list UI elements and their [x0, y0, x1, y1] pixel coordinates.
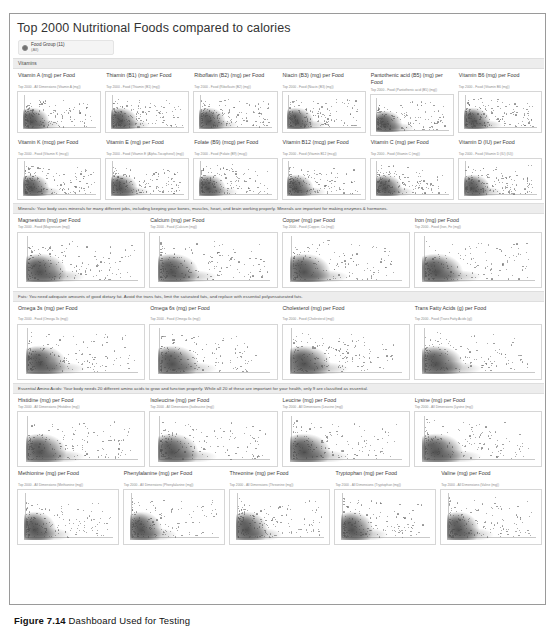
scatter-plot[interactable]	[334, 489, 436, 545]
section-banner-amino-acids: Essential Amino Acids: Your body needs 2…	[13, 383, 544, 394]
scatter-density	[287, 95, 345, 129]
scatter-density	[130, 495, 200, 540]
figure-caption: Figure 7.14 Dashboard Used for Testing	[14, 615, 190, 626]
chart-panel[interactable]: Pantothenic acid (B5) (mg) per FoodTop 2…	[370, 69, 458, 136]
scatter-plot[interactable]	[193, 91, 277, 133]
scatter-plot[interactable]	[229, 489, 331, 545]
scatter-plot[interactable]	[370, 158, 454, 200]
dashboard-content: Top 2000 Nutritional Foods compared to c…	[13, 17, 544, 603]
chart-panel[interactable]: Tryptophan (mg) per FoodTop 2000 - All D…	[334, 467, 440, 545]
chart-panel[interactable]: Magnesium (mg) per FoodTop 2000 - Food (…	[17, 214, 149, 288]
chart-title: Vitamin A (mg) per Food	[17, 69, 101, 83]
chart-panel[interactable]: Leucine (mg) per FoodTop 2000 - All Dime…	[282, 394, 414, 468]
chart-panel[interactable]: Trans Fatty Acids (g) per FoodTop 2000 -…	[414, 302, 542, 380]
scatter-plot[interactable]	[17, 411, 145, 467]
scatter-plot[interactable]	[282, 232, 410, 288]
chart-title: Riboflavin (B2) (mg) per Food	[193, 69, 277, 83]
scatter-plot[interactable]	[123, 489, 225, 545]
scatter-plot[interactable]	[414, 324, 542, 380]
chart-panel[interactable]: Vitamin B12 (mcg) per FoodTop 2000 - Foo…	[282, 136, 370, 200]
scatter-plot[interactable]	[282, 411, 410, 467]
chart-panel[interactable]: Histidine (mg) per FoodTop 2000 - All Di…	[17, 394, 149, 468]
chart-panel[interactable]: Phenylalanine (mg) per FoodTop 2000 - Al…	[123, 467, 229, 545]
chart-panel[interactable]: Vitamin A (mg) per FoodTop 2000 - All Di…	[17, 69, 105, 136]
chart-panel[interactable]: Niacin (B3) (mg) per FoodTop 2000 - Food…	[282, 69, 370, 136]
scatter-plot[interactable]	[440, 489, 542, 545]
chart-panel[interactable]: Methionine (mg) per FoodTop 2000 - All D…	[17, 467, 123, 545]
scatter-plot[interactable]	[282, 91, 366, 133]
scatter-plot[interactable]	[458, 158, 542, 200]
chart-subtitle: Top 2000 - Food (Trans Fatty Acids (g))	[414, 316, 542, 324]
scatter-plot[interactable]	[149, 411, 277, 467]
chart-panel[interactable]: Vitamin E (mg) per FoodTop 2000 - Food (…	[105, 136, 193, 200]
scatter-plot[interactable]	[17, 489, 119, 545]
scatter-density	[158, 417, 246, 462]
chart-panel[interactable]: Riboflavin (B2) (mg) per FoodTop 2000 - …	[193, 69, 281, 136]
scatter-plot[interactable]	[414, 232, 542, 288]
chart-title: Trans Fatty Acids (g) per Food	[414, 302, 542, 316]
chart-panel[interactable]: Vitamin D (IU) per FoodTop 2000 - Food (…	[458, 136, 542, 200]
chart-panel[interactable]: Threonine (mg) per FoodTop 2000 - All Di…	[229, 467, 335, 545]
scatter-plot[interactable]	[149, 324, 277, 380]
chart-panel[interactable]: Omega 3s (mg) per FoodTop 2000 - Food (O…	[17, 302, 149, 380]
chart-panel[interactable]: Thiamin (B1) (mg) per FoodTop 2000 - Foo…	[105, 69, 193, 136]
scatter-plot[interactable]	[458, 91, 542, 133]
chart-subtitle: Top 2000 - All Dimensions (Vitamin A (mg…	[17, 84, 101, 92]
chart-subtitle: Top 2000 - Food (Folate (B9) (mcg))	[193, 151, 277, 159]
chart-panel[interactable]: Vitamin B6 (mg) per FoodTop 2000 - Food …	[458, 69, 542, 136]
chart-panel[interactable]: Iron (mg) per FoodTop 2000 - Food (Iron,…	[414, 214, 542, 288]
tableau-dashboard[interactable]: Top 2000 Nutritional Foods compared to c…	[9, 13, 546, 605]
chart-subtitle: Top 2000 - Food (Pantothenic acid (B5) (…	[370, 87, 454, 95]
chart-subtitle: Top 2000 - Food (Riboflavin (B2) (mg))	[193, 84, 277, 92]
scatter-density	[111, 162, 169, 196]
chart-row: Magnesium (mg) per FoodTop 2000 - Food (…	[13, 214, 544, 288]
scatter-density	[23, 95, 81, 129]
chart-subtitle: Top 2000 - All Dimensions (Valine (mg))	[440, 482, 542, 490]
chart-title: Iron (mg) per Food	[414, 214, 542, 224]
section-banner-text: Vitamins	[18, 60, 37, 67]
chart-panel[interactable]: Copper (mg) per FoodTop 2000 - Food (Cop…	[282, 214, 414, 288]
figure-caption-text: Dashboard Used for Testing	[69, 615, 191, 626]
scatter-plot[interactable]	[282, 158, 366, 200]
chart-panel[interactable]: Omega 6s (mg) per FoodTop 2000 - Food (O…	[149, 302, 281, 380]
chart-title: Niacin (B3) (mg) per Food	[282, 69, 366, 83]
food-group-filter[interactable]: Food Group (11) (All)	[18, 40, 114, 55]
chart-title: Cholesterol (mg) per Food	[282, 302, 410, 316]
scatter-plot[interactable]	[17, 324, 145, 380]
scatter-plot[interactable]	[105, 91, 189, 133]
chart-panel[interactable]: Valine (mg) per FoodTop 2000 - All Dimen…	[440, 467, 542, 545]
chart-title: Omega 3s (mg) per Food	[17, 302, 145, 316]
chart-panel[interactable]: Lysine (mg) per FoodTop 2000 - All Dimen…	[414, 394, 542, 468]
chart-subtitle: Top 2000 - All Dimensions (Tryptophan (m…	[334, 482, 436, 490]
chart-panel[interactable]: Vitamin C (mg) per FoodTop 2000 - Food (…	[370, 136, 458, 200]
chart-panel[interactable]: Vitamin K (mcg) per FoodTop 2000 - Food …	[17, 136, 105, 200]
scatter-density	[422, 329, 510, 374]
scatter-plot[interactable]	[17, 158, 101, 200]
scatter-plot[interactable]	[282, 324, 410, 380]
chart-row: Methionine (mg) per FoodTop 2000 - All D…	[13, 467, 544, 545]
chart-subtitle: Top 2000 - All Dimensions (Lysine (mg))	[414, 404, 542, 412]
chart-subtitle: Top 2000 - Food (Vitamin K (mcg))	[17, 151, 101, 159]
chart-panel[interactable]: Cholesterol (mg) per FoodTop 2000 - Food…	[282, 302, 414, 380]
chart-subtitle: Top 2000 - Food (Vitamin B12 (mcg))	[282, 151, 366, 159]
scatter-plot[interactable]	[414, 411, 542, 467]
chart-panel[interactable]: Calcium (mg) per FoodTop 2000 - Food (Ca…	[149, 214, 281, 288]
scatter-plot[interactable]	[370, 94, 454, 136]
scatter-plot[interactable]	[149, 232, 277, 288]
chart-panel[interactable]: Isoleucine (mg) per FoodTop 2000 - All D…	[149, 394, 281, 468]
radio-button-icon[interactable]	[22, 45, 28, 51]
chart-subtitle: Top 2000 - Food (Cholesterol (mg))	[282, 316, 410, 324]
scatter-density	[26, 329, 114, 374]
scatter-plot[interactable]	[105, 158, 189, 200]
chart-subtitle: Top 2000 - Food (Omega 6s (mg))	[149, 316, 277, 324]
chart-panel[interactable]: Folate (B9) (mcg) per FoodTop 2000 - Foo…	[193, 136, 281, 200]
chart-title: Copper (mg) per Food	[282, 214, 410, 224]
scatter-plot[interactable]	[193, 158, 277, 200]
chart-title: Valine (mg) per Food	[440, 467, 542, 481]
section-banner-minerals: Minerals: Your body uses minerals for ma…	[13, 203, 544, 214]
chart-row: Vitamin A (mg) per FoodTop 2000 - All Di…	[13, 69, 544, 136]
scatter-plot[interactable]	[17, 232, 145, 288]
chart-subtitle: Top 2000 - Food (Niacin (B3) (mg))	[282, 84, 366, 92]
scatter-plot[interactable]	[17, 91, 101, 133]
chart-title: Vitamin C (mg) per Food	[370, 136, 454, 150]
